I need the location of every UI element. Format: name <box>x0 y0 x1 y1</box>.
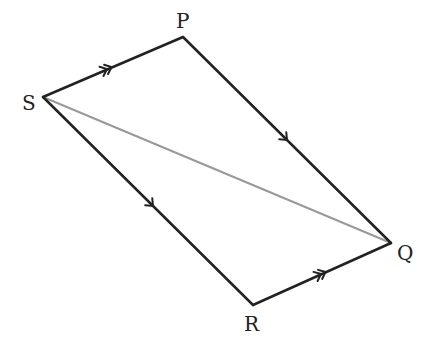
edge-sp <box>43 37 183 97</box>
double-arrow-icon-rq <box>313 267 327 281</box>
vertex-label-p: P <box>176 9 189 33</box>
vertex-label-s: S <box>22 91 36 115</box>
edge-sr <box>43 97 253 305</box>
diagonal-sq <box>43 97 391 243</box>
parallelogram-diagram: P S Q R <box>0 0 438 356</box>
double-arrow-icon-sp <box>100 62 114 76</box>
vertex-label-q: Q <box>397 241 413 265</box>
vertex-label-r: R <box>244 312 260 336</box>
